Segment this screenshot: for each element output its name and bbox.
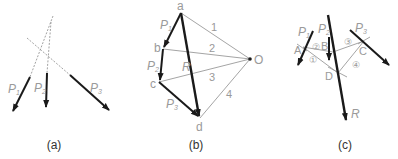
label-p1: P1 (160, 18, 172, 32)
force-polygon-diagram: P1 P2 P3 (a) a b c d O P1 P2 P3 R 1 2 3 … (0, 0, 398, 159)
point-c: c (150, 77, 156, 91)
label-p2: P2 (318, 22, 330, 36)
label-p3: P3 (90, 81, 102, 95)
panel-b: a b c d O P1 P2 P3 R 1 2 3 4 (b) (147, 0, 263, 152)
label-r: R (182, 60, 191, 74)
label-p3: P3 (355, 21, 367, 35)
ray-label-2: 2 (209, 42, 215, 54)
label-p1: P1 (298, 25, 310, 39)
label-r: R (351, 107, 360, 121)
label-p1: P1 (8, 82, 20, 96)
point-a: A (294, 44, 302, 56)
point-b: b (154, 41, 161, 55)
point-c: C (359, 45, 367, 57)
point-o: O (254, 53, 263, 67)
ray-label-3: 3 (209, 71, 215, 83)
ray-3 (159, 59, 250, 82)
force-arrow-p2 (46, 73, 47, 107)
segment-label-4: ④ (352, 60, 360, 70)
caption-b: (b) (189, 138, 204, 152)
panel-c: A B C D P1 P2 P3 R ① ② ③ ④ (c) (294, 15, 389, 152)
pole-point-o (248, 57, 252, 61)
dashed-line-p3 (27, 38, 70, 75)
segment-label-3: ③ (344, 37, 352, 47)
point-d: d (196, 120, 203, 134)
ray-4 (200, 59, 250, 118)
point-a: a (177, 0, 184, 13)
ray-label-1: 1 (211, 21, 217, 33)
caption-c: (c) (338, 138, 352, 152)
segment-label-2: ② (312, 42, 320, 52)
label-p2: P2 (34, 81, 46, 95)
ray-label-4: 4 (226, 88, 232, 100)
dashed-line-p1 (30, 16, 53, 77)
caption-a: (a) (47, 138, 62, 152)
label-p3: P3 (166, 97, 178, 111)
segment-label-1: ① (309, 55, 317, 65)
panel-a: P1 P2 P3 (a) (8, 16, 109, 152)
force-vector-p3 (159, 82, 198, 116)
point-b: B (321, 40, 328, 52)
point-d: D (325, 70, 333, 82)
label-p2: P2 (147, 59, 159, 73)
